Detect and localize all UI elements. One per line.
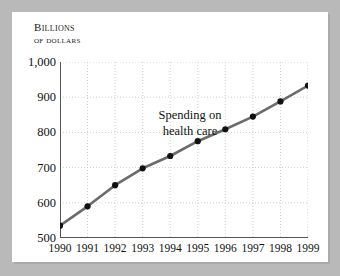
- x-axis-tick-label: 1999: [288, 242, 328, 254]
- series-line: [60, 86, 308, 226]
- y-axis-tick-label: 800: [16, 125, 56, 140]
- y-axis-title: Billions of dollars: [34, 22, 81, 46]
- y-axis-tick-label: 600: [16, 195, 56, 210]
- plot-area: [60, 62, 308, 238]
- data-point-marker: [84, 203, 90, 209]
- data-point-marker: [167, 153, 173, 159]
- series-annotation-line-2: health care: [130, 124, 250, 140]
- y-axis-tick-label: 1,000: [16, 55, 56, 70]
- data-line: [60, 86, 308, 226]
- data-point-marker: [250, 113, 256, 119]
- y-axis-title-line-2: of dollars: [34, 36, 81, 46]
- y-axis-tick-label: 700: [16, 160, 56, 175]
- data-markers: [60, 82, 308, 228]
- series-annotation: Spending on health care: [130, 108, 250, 139]
- series-annotation-line-1: Spending on: [130, 108, 250, 124]
- data-point-marker: [140, 165, 146, 171]
- y-axis-tick-label: 900: [16, 90, 56, 105]
- line-chart-svg: [60, 62, 308, 238]
- figure-frame: Billions of dollars 1,000900800700600500…: [0, 0, 340, 276]
- data-point-marker: [112, 182, 118, 188]
- y-axis-title-line-1: Billions: [34, 22, 81, 34]
- x-axis-tick-labels: 1990199119921993199419951996199719981999: [60, 242, 308, 260]
- data-point-marker: [277, 98, 283, 104]
- figure-card: Billions of dollars 1,000900800700600500…: [12, 12, 328, 262]
- y-axis-tick-labels: 1,000900800700600500: [12, 62, 56, 238]
